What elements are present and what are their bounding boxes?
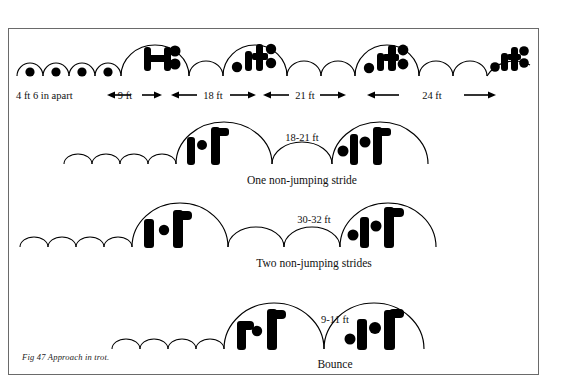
- pole-arc: [148, 154, 176, 164]
- fence-icon-upright: [144, 46, 181, 72]
- ground-pole-icon: [25, 67, 34, 76]
- row4-group: 9-11 ft Bounce: [112, 303, 424, 370]
- dimension-24ft: 24 ft: [367, 90, 496, 101]
- pole-arc: [76, 237, 104, 247]
- pole-arc: [120, 154, 148, 164]
- fence-icon-spread: [338, 127, 392, 165]
- approach-in-trot-diagram: 4 ft 6 in apart 9 ft 18 ft: [9, 29, 538, 374]
- dimension-label: 24 ft: [422, 90, 442, 101]
- dimension-18ft: 18 ft: [171, 90, 256, 101]
- pole-arc: [168, 339, 196, 349]
- pole-arc: [92, 154, 120, 164]
- dimension-label: 21 ft: [295, 90, 315, 101]
- fence-icon-spread: [232, 44, 276, 72]
- row3-trotting-poles: [20, 237, 132, 247]
- jump-arc: [223, 45, 287, 76]
- dimension-21ft: 21 ft: [263, 90, 346, 101]
- canter-arc: [189, 61, 223, 76]
- dimension-9ft: 9 ft: [107, 90, 162, 101]
- stride-label: One non-jumping stride: [247, 174, 357, 187]
- row1-group: 4 ft 6 in apart 9 ft 18 ft: [16, 44, 530, 101]
- pole-arc: [64, 154, 92, 164]
- distance-label: 30-32 ft: [297, 214, 331, 225]
- pole-arc: [104, 237, 132, 247]
- pole-spacing-label: 4 ft 6 in apart: [16, 90, 73, 101]
- fence-icon-upright: [187, 127, 229, 165]
- fence-icon-spread: [348, 207, 405, 248]
- row1-trotting-poles: [17, 63, 121, 77]
- pole-arc: [196, 339, 224, 349]
- canter-arc: [287, 61, 321, 76]
- ground-pole-icon: [103, 67, 112, 76]
- non-jumping-stride-arc: [272, 142, 332, 164]
- canter-arc: [453, 61, 487, 76]
- dimension-label: 9 ft: [118, 90, 132, 101]
- figure-page: 4 ft 6 in apart 9 ft 18 ft: [0, 0, 565, 385]
- pole-arc: [48, 237, 76, 247]
- fence-icon-upright: [144, 210, 192, 248]
- canter-arc: [321, 61, 355, 76]
- pole-arc: [20, 237, 48, 247]
- canter-arc: [419, 61, 453, 76]
- ground-pole-icon: [51, 67, 60, 76]
- stride-label: Two non-jumping strides: [256, 257, 372, 270]
- row4-trotting-poles: [112, 339, 224, 349]
- dimension-label: 18 ft: [203, 90, 223, 101]
- distance-label: 9-11 ft: [321, 314, 349, 325]
- row2-group: 18-21 ft One non-jumping stride: [64, 122, 428, 187]
- distance-label: 18-21 ft: [285, 132, 319, 143]
- pole-arc: [140, 339, 168, 349]
- fence-icon-spread: [490, 46, 529, 72]
- non-jumping-stride-arc: [284, 227, 340, 247]
- row2-trotting-poles: [64, 154, 176, 164]
- stride-label: Bounce: [317, 358, 352, 370]
- fence-icon-spread: [345, 309, 405, 350]
- ground-pole-icon: [77, 67, 86, 76]
- figure-frame: 4 ft 6 in apart 9 ft 18 ft: [8, 28, 539, 375]
- row3-group: 30-32 ft Two non-jumping strides: [20, 203, 436, 270]
- fence-icon-upright: [237, 309, 286, 350]
- non-jumping-stride-arc: [228, 227, 284, 247]
- figure-caption: Fig 47 Approach in trot.: [22, 352, 109, 362]
- pole-arc: [112, 339, 140, 349]
